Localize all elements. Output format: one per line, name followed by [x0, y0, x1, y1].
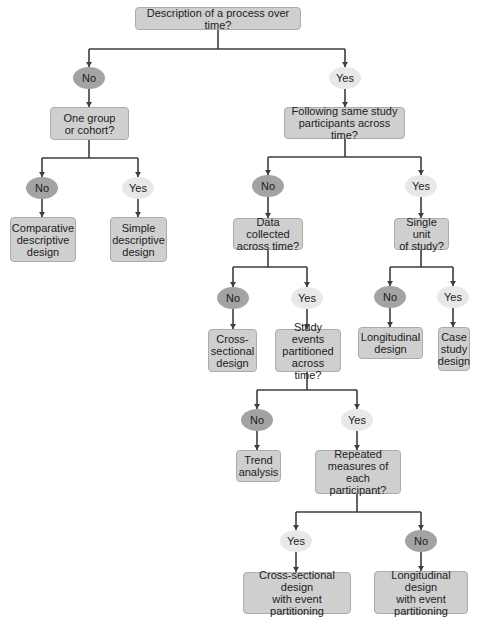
answer-no-oval: No: [73, 67, 105, 89]
connector-lines: [0, 0, 481, 622]
repeated-measures-question-box: Repeated measures of each participant?: [315, 450, 401, 494]
data-collected-question-box: Data collected across time?: [233, 218, 303, 250]
single-unit-question-box: Single unit of study?: [394, 218, 449, 250]
cross-sectional-design-box: Cross- sectional design: [208, 329, 257, 372]
cross-sectional-event-partitioning-box: Cross-sectional design with event partit…: [243, 572, 351, 614]
answer-yes-oval: Yes: [341, 409, 373, 431]
answer-no-oval: No: [405, 530, 437, 552]
longitudinal-event-partitioning-box: Longitudinal design with event partition…: [374, 571, 468, 614]
answer-yes-oval: Yes: [437, 286, 469, 308]
case-study-design-box: Case study design: [438, 327, 470, 371]
answer-no-oval: No: [252, 175, 284, 197]
answer-no-oval: No: [374, 286, 406, 308]
trend-analysis-box: Trend analysis: [236, 450, 281, 482]
answer-yes-oval: Yes: [329, 67, 361, 89]
answer-yes-oval: Yes: [405, 175, 437, 197]
following-participants-question-box: Following same study participants across…: [284, 107, 405, 139]
answer-yes-oval: Yes: [291, 287, 323, 309]
answer-no-oval: No: [241, 409, 273, 431]
answer-yes-oval: Yes: [280, 530, 312, 552]
study-events-question-box: Study events partitioned across time?: [275, 329, 341, 372]
root-question-box: Description of a process over time?: [135, 7, 301, 30]
one-group-question-box: One group or cohort?: [50, 107, 129, 140]
answer-no-oval: No: [26, 177, 58, 199]
research-design-flowchart: Description of a process over time? No Y…: [0, 0, 481, 622]
comparative-descriptive-design-box: Comparative descriptive design: [10, 217, 76, 262]
answer-no-oval: No: [217, 287, 249, 309]
simple-descriptive-design-box: Simple descriptive design: [110, 217, 167, 262]
longitudinal-design-box: Longitudinal design: [358, 327, 423, 359]
answer-yes-oval: Yes: [122, 177, 154, 199]
